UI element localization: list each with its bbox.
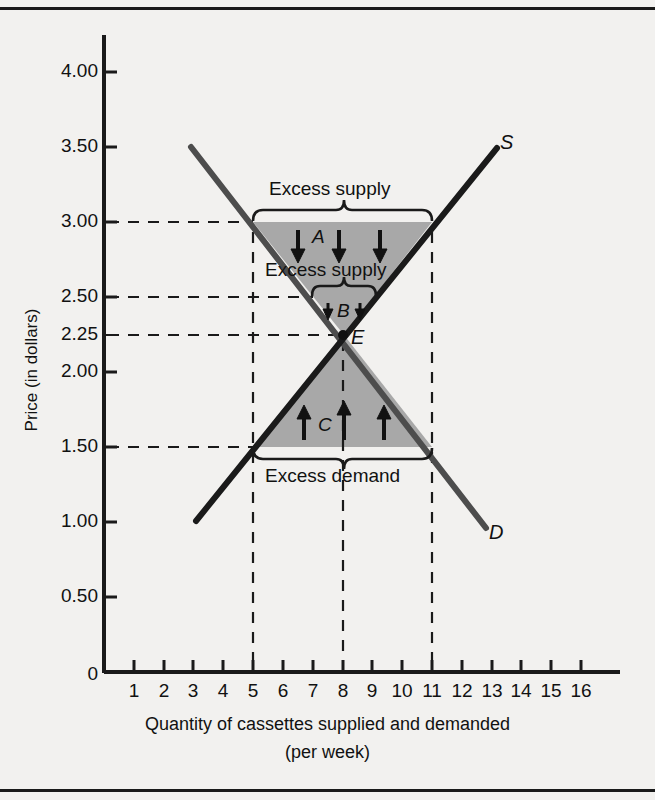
x-tick-label-13: 13 (477, 680, 507, 702)
x-tick-label-2: 2 (149, 680, 179, 702)
x-tick-label-12: 12 (447, 680, 477, 702)
x-axis-title-line1: Quantity of cassettes supplied and deman… (0, 714, 655, 735)
x-tick-label-6: 6 (268, 680, 298, 702)
region-a-label: A (312, 226, 325, 248)
x-tick-label-10: 10 (387, 680, 417, 702)
x-tick-label-15: 15 (536, 680, 566, 702)
x-tick-label-3: 3 (178, 680, 208, 702)
x-tick-label-11: 11 (417, 680, 447, 702)
x-tick-label-9: 9 (357, 680, 387, 702)
equilibrium-label: E (351, 326, 364, 349)
excess-supply-lower-label: Excess supply (265, 259, 386, 281)
demand-curve-label: D (489, 521, 503, 544)
y-tick-label-100: 1.00 (20, 510, 98, 532)
y-tick-label-150: 1.50 (20, 435, 98, 457)
x-tick-label-16: 16 (566, 680, 596, 702)
excess-demand-label: Excess demand (265, 465, 400, 487)
y-tick-label-0: 0 (20, 663, 98, 685)
excess-supply-upper-brace (253, 200, 432, 221)
y-tick-label-350: 3.50 (20, 135, 98, 157)
y-tick-label-400: 4.00 (20, 60, 98, 82)
x-tick-label-1: 1 (119, 680, 149, 702)
supply-curve-label: S (500, 131, 513, 154)
y-tick-label-300: 3.00 (20, 210, 98, 232)
equilibrium-point-marker (338, 330, 348, 340)
y-tick-label-200: 2.00 (20, 360, 98, 382)
x-tick-label-14: 14 (506, 680, 536, 702)
x-tick-label-8: 8 (328, 680, 358, 702)
region-b-label: B (337, 300, 350, 322)
figure-panel: Price (in dollars) 0 0.50 1.00 1.50 2.00… (0, 0, 655, 800)
x-axis-title-line2: (per week) (0, 742, 655, 763)
y-tick-label-050: 0.50 (20, 585, 98, 607)
excess-supply-upper-label: Excess supply (269, 178, 390, 200)
region-c-label: C (318, 414, 332, 436)
x-tick-label-7: 7 (298, 680, 328, 702)
x-tick-label-4: 4 (208, 680, 238, 702)
y-tick-label-225: 2.25 (20, 323, 98, 345)
y-tick-label-250: 2.50 (20, 285, 98, 307)
x-tick-label-5: 5 (238, 680, 268, 702)
